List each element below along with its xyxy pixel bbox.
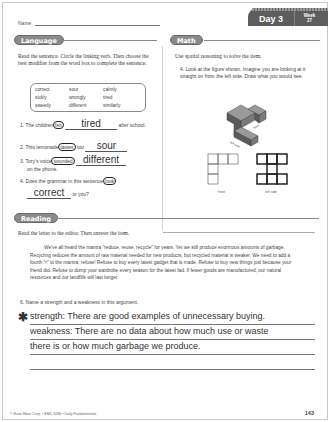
answer-line[interactable]: there is or how much garbage we produce.: [30, 340, 315, 355]
answer-field[interactable]: tired: [65, 119, 117, 130]
item-text: after school.: [118, 122, 145, 128]
day-week-tab: Day 3 Week 27: [248, 8, 328, 26]
section-title-reading: Reading: [14, 213, 58, 223]
answer-line[interactable]: weakness: There are no data about how mu…: [30, 325, 315, 340]
language-item-1: 1. The childrenfelt tired after school.: [20, 119, 160, 130]
reading-passage: We've all heard the mantra "reduce, reus…: [30, 244, 298, 282]
answer-lines: strength: There are good examples of unn…: [30, 310, 315, 370]
left-side-grid-label: left side: [265, 190, 277, 194]
language-item-3: 3. Tory's voicesounded different on the …: [20, 155, 160, 173]
item-number: 2.: [20, 144, 24, 150]
answer-line[interactable]: [30, 355, 315, 370]
name-field[interactable]: [35, 21, 160, 26]
answer-field[interactable]: different: [76, 155, 126, 166]
column-divider: [162, 46, 163, 230]
word-box-item: sour: [69, 86, 99, 94]
word-box-item: sickly: [35, 94, 65, 102]
section-title-math: Math: [170, 35, 203, 45]
word-box: correct sour calmly sickly wrongly tired…: [30, 83, 146, 112]
circled-verb[interactable]: sounded: [51, 157, 74, 165]
name-row: Name: [18, 20, 160, 26]
isometric-figure: front left side: [224, 101, 274, 149]
reading-question: 6. Name a strength and a weakness in thi…: [20, 299, 270, 306]
front-view-grid: [207, 153, 239, 185]
answer-field[interactable]: correct: [27, 188, 71, 199]
item-text: Look at the figure shown. Imagine you ar…: [180, 66, 305, 79]
answer-field[interactable]: sour: [85, 141, 127, 152]
language-item-2: 2. This lemonadetastes too sour: [20, 141, 160, 152]
section-title-language: Language: [14, 35, 64, 45]
language-instructions: Read the sentence. Circle the linking ve…: [18, 53, 156, 68]
word-box-item: calmly: [103, 86, 143, 94]
circled-verb[interactable]: felt: [53, 121, 64, 129]
math-item-4: 4. Look at the figure shown. Imagine you…: [180, 66, 320, 79]
asterisk-icon: ✱: [18, 310, 28, 324]
item-text: Name a strength and a weakness in this a…: [26, 299, 139, 305]
item-number: 4.: [180, 66, 184, 72]
math-instructions: Use spatial reasoning to solve the item.: [175, 53, 325, 60]
word-box-item: tired: [103, 94, 143, 102]
word-box-item: similarly: [103, 102, 143, 110]
figure-label-front: front: [253, 123, 260, 129]
item-number: 1.: [20, 122, 24, 128]
week-number: 27: [295, 18, 324, 23]
item-text: Does the grammar in this sentence: [26, 178, 104, 184]
word-box-item: different: [69, 102, 99, 110]
section-rule: [204, 40, 320, 41]
item-text: on the phone.: [20, 166, 58, 172]
circled-verb[interactable]: tastes: [58, 143, 75, 151]
copyright: © Evan-Moor Corp. • EMC 3286 • Daily Fun…: [10, 412, 96, 416]
item-text: to you?: [72, 191, 88, 197]
word-box-item: correct: [35, 86, 65, 94]
word-box-item: sweetly: [35, 102, 65, 110]
word-box-item: wrongly: [69, 94, 99, 102]
front-grid-label: front: [218, 190, 225, 194]
item-number: 6.: [20, 299, 24, 305]
name-label: Name: [18, 20, 31, 26]
item-number: 4.: [20, 178, 24, 184]
figure-label-left-side: left side: [230, 140, 241, 149]
answer-line[interactable]: strength: There are good examples of unn…: [30, 310, 315, 325]
left-side-answer-grid[interactable]: [256, 153, 288, 185]
section-rule: [60, 40, 157, 41]
item-number: 3.: [20, 158, 24, 164]
reading-instructions: Read the letter to the editor. Then answ…: [18, 230, 318, 237]
item-text: The children: [25, 122, 53, 128]
circled-verb[interactable]: look: [103, 177, 116, 185]
language-item-4: 4. Does the grammar in this sentencelook…: [20, 178, 160, 199]
item-text: This lemonade: [25, 144, 58, 150]
item-text: Tory's voice: [25, 158, 51, 164]
page-number: 143: [305, 410, 314, 416]
dotted-stripe: [252, 8, 328, 11]
section-rule: [56, 218, 319, 219]
item-text: too: [77, 144, 84, 150]
